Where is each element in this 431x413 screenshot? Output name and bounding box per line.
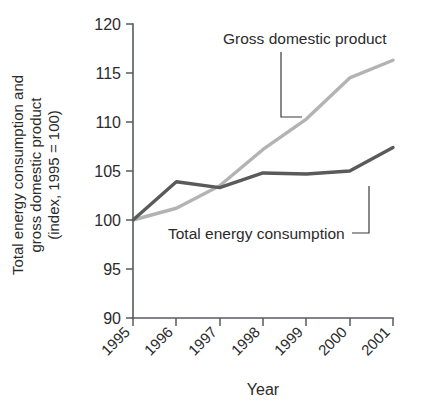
- y-tick-label: 115: [95, 65, 121, 82]
- y-tick-label: 95: [103, 261, 121, 278]
- chart-figure: Total energy consumption and gross domes…: [0, 0, 431, 413]
- y-tick-label: 105: [94, 163, 121, 180]
- annotation-label: Gross domestic product: [223, 30, 387, 47]
- y-axis-label-line-3: (index, 1995 = 100): [45, 110, 62, 240]
- x-tick-label: 2000: [315, 323, 351, 359]
- y-axis-label-line-2: gross domestic product: [27, 97, 44, 253]
- y-tick-label: 110: [95, 114, 121, 131]
- line-chart-svg: Total energy consumption and gross domes…: [0, 0, 431, 413]
- y-axis-ticks: 120 115 110 105 100 95 90: [94, 16, 133, 327]
- y-axis-label-line-1: Total energy consumption and: [9, 75, 26, 275]
- annotation-label: Total energy consumption: [168, 225, 345, 242]
- x-tick-label: 1996: [141, 323, 177, 359]
- x-axis-ticks: 1995 1996 1997 1998 1999 2000 2001: [98, 318, 394, 359]
- annotation-leader-line: [352, 186, 369, 233]
- x-tick-label: 1999: [271, 323, 307, 359]
- x-tick-label: 1998: [228, 323, 264, 359]
- x-tick-label: 1997: [185, 323, 221, 359]
- y-tick-label: 120: [94, 16, 121, 33]
- series-line-gross-domestic-product: [133, 60, 393, 220]
- y-axis-label: Total energy consumption and gross domes…: [9, 75, 62, 275]
- annotation-leader-line: [281, 52, 302, 117]
- x-tick-label: 2001: [358, 323, 394, 359]
- annotation-total-energy-consumption: Total energy consumption: [168, 186, 369, 242]
- y-tick-label: 100: [94, 212, 121, 229]
- x-tick-label: 1995: [98, 323, 134, 359]
- x-axis-label: Year: [247, 381, 280, 398]
